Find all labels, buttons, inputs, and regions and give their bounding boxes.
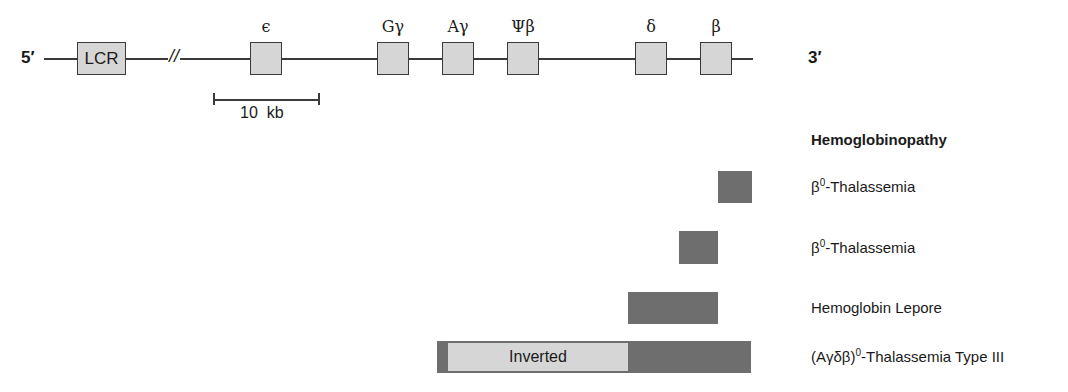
gene-psi-beta: [507, 42, 539, 75]
deletion-bar-hb-lepore: [628, 292, 718, 324]
deletion-label-2: β0-Thalassemia: [811, 238, 915, 256]
label-suffix: -Thalassemia: [825, 178, 915, 195]
deletion-label-3: Hemoglobin Lepore: [811, 299, 942, 316]
label-suffix: -Thalassemia Type III: [861, 348, 1004, 365]
scale-bar-tick-right: [318, 93, 320, 105]
gene-g-gamma-label: Gγ: [363, 17, 423, 36]
dna-line-left: [44, 58, 77, 60]
gene-beta-label: β: [686, 17, 746, 36]
gene-psi-beta-label: Ψβ: [493, 17, 553, 36]
gene-beta: [700, 42, 732, 75]
gene-lcr-label: LCR: [84, 49, 118, 69]
deletion-bar-beta0-thal-1: [718, 171, 752, 203]
scale-bar: [213, 99, 319, 101]
scale-bar-label: 10 kb: [240, 104, 284, 122]
break-mark: //: [168, 46, 180, 67]
label-suffix: -Thalassemia: [825, 239, 915, 256]
gene-a-gamma-label: Aγ: [428, 17, 488, 36]
label-prefix: (Aγδβ): [811, 348, 855, 365]
deletion-label-1: β0-Thalassemia: [811, 177, 915, 195]
deletion-label-4: (Aγδβ)0-Thalassemia Type III: [811, 347, 1004, 365]
label-prefix: β: [811, 178, 820, 195]
scale-bar-tick-left: [213, 93, 215, 105]
hemoglobinopathy-heading: Hemoglobinopathy: [811, 131, 947, 148]
inverted-label: Inverted: [509, 348, 567, 366]
inverted-segment: Inverted: [448, 343, 628, 371]
gene-g-gamma: [377, 42, 409, 75]
deletion-bar-beta0-thal-2: [679, 231, 718, 264]
label-text: Hemoglobin Lepore: [811, 299, 942, 316]
gene-lcr: LCR: [77, 42, 126, 75]
three-prime-label: 3′: [808, 48, 822, 68]
gene-delta: [635, 42, 667, 75]
gene-epsilon-label: ϵ: [236, 17, 296, 36]
gene-a-gamma: [442, 42, 474, 75]
gene-delta-label: δ: [621, 17, 681, 36]
label-prefix: β: [811, 239, 820, 256]
gene-epsilon: [250, 42, 282, 75]
five-prime-label: 5′: [21, 48, 35, 68]
